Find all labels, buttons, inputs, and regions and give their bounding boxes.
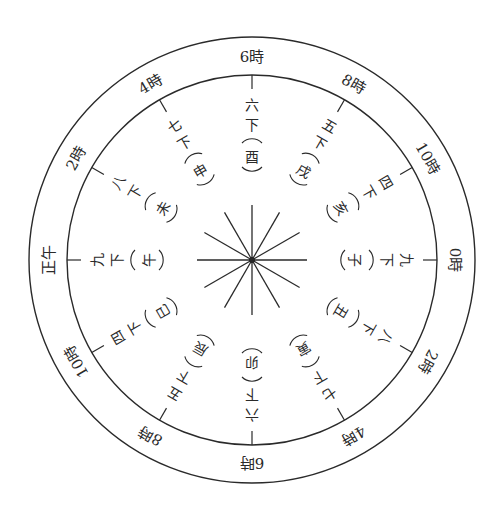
segment-branch: 未: [152, 198, 173, 218]
segment-count: 七: [164, 115, 184, 136]
segment-suffix: 下: [358, 317, 379, 337]
segment-count: 五: [319, 115, 339, 136]
spoke-line: [252, 260, 300, 288]
segment-count: 八: [376, 327, 397, 347]
segment-count: 五: [164, 384, 184, 405]
segment-branch: 子: [347, 253, 363, 267]
hour-label-10: 2時: [62, 143, 90, 173]
hour-label-2: 10時: [411, 139, 444, 178]
segment-suffix: 下: [309, 366, 329, 387]
segment-suffix: 下: [245, 387, 259, 403]
hour-label-text: 0時: [446, 248, 464, 273]
spoke-line: [252, 260, 280, 308]
hour-label-9: 正午: [40, 245, 58, 275]
ring-tick: [400, 168, 412, 175]
segment-branch: 辰: [190, 339, 210, 360]
segment-suffix: 下: [174, 366, 194, 387]
paren-open-icon: [242, 377, 262, 381]
ring-tick: [92, 168, 104, 175]
segment-branch: 丑: [331, 301, 352, 321]
dial-svg: 6時8時10時0時2時4時6時8時10時正午2時4時 六下酉五下戌四下亥九下子八…: [0, 0, 500, 509]
hour-label-text: 8時: [338, 70, 368, 98]
hour-label-text: 10時: [60, 342, 93, 381]
spoke-line: [225, 212, 253, 260]
hour-label-0: 6時: [240, 48, 265, 66]
segment-suffix: 下: [125, 317, 146, 337]
ring-tick: [338, 100, 345, 112]
segment-count: 四: [107, 327, 128, 347]
paren-close-icon: [159, 250, 163, 270]
segment-label-9: 九下午: [89, 250, 163, 270]
segment-label-8: 四下巳: [106, 296, 180, 350]
ring-tick: [160, 100, 167, 112]
segment-label-6: 六下卯: [242, 349, 262, 423]
hour-label-text: 6時: [240, 48, 265, 66]
paren-open-icon: [369, 250, 373, 270]
segment-suffix: 下: [109, 253, 125, 267]
segment-suffix: 下: [125, 182, 146, 202]
hour-label-11: 4時: [135, 70, 165, 98]
hour-label-text: 4時: [338, 422, 368, 450]
segment-branch: 午: [141, 253, 157, 267]
segment-branch: 申: [190, 160, 210, 181]
hour-label-text: 10時: [411, 139, 444, 178]
segment-suffix: 下: [358, 182, 379, 202]
segment-branch: 卯: [245, 355, 259, 371]
ring-tick: [338, 408, 345, 420]
spoke-line: [204, 260, 252, 288]
hour-label-8: 10時: [60, 342, 93, 381]
hour-label-3: 0時: [446, 248, 464, 273]
segment-branch: 巳: [152, 301, 173, 321]
segment-suffix: 下: [245, 117, 259, 133]
hour-label-text: 2時: [62, 143, 90, 173]
spoke-line: [252, 212, 280, 260]
segment-count: 六: [245, 97, 259, 113]
segment-suffix: 下: [379, 253, 395, 267]
segment-branch: 戌: [293, 160, 313, 181]
ring-tick: [160, 408, 167, 420]
segment-label-5: 七下寅: [288, 332, 342, 406]
segment-label-3: 九下子: [341, 250, 415, 270]
spoke-line: [204, 233, 252, 261]
segment-count: 九: [89, 253, 105, 267]
hour-label-1: 8時: [338, 70, 368, 98]
ring-tick: [400, 346, 412, 353]
paren-close-icon: [242, 349, 262, 353]
spoke-line: [252, 233, 300, 261]
hour-label-text: 8時: [135, 422, 165, 450]
hour-label-5: 4時: [338, 422, 368, 450]
hour-label-text: 6時: [240, 454, 265, 472]
segment-label-0: 六下酉: [242, 97, 262, 171]
hour-label-text: 2時: [414, 346, 442, 376]
segment-label-2: 四下亥: [324, 170, 398, 224]
hour-label-text: 正午: [40, 245, 58, 275]
segment-branch: 寅: [293, 339, 313, 360]
paren-close-icon: [242, 167, 262, 171]
spoke-line: [225, 260, 253, 308]
paren-open-icon: [242, 139, 262, 143]
dial-spokes: [197, 205, 307, 315]
segment-label-1: 五下戌: [288, 114, 342, 188]
segment-suffix: 下: [309, 133, 329, 154]
hour-label-6: 6時: [240, 454, 265, 472]
segment-label-7: 五下辰: [162, 332, 216, 406]
segment-branch: 亥: [331, 198, 352, 218]
segment-count: 六: [245, 407, 259, 423]
hour-label-4: 2時: [414, 346, 442, 376]
paren-close-icon: [341, 250, 345, 270]
hour-label-7: 8時: [135, 422, 165, 450]
segment-label-4: 八下丑: [324, 296, 398, 350]
segment-count: 九: [399, 253, 415, 267]
segment-suffix: 下: [174, 133, 194, 154]
hour-label-text: 4時: [135, 70, 165, 98]
segment-label-10: 八下未: [106, 170, 180, 224]
segment-count: 八: [107, 172, 128, 192]
ring-tick: [92, 346, 104, 353]
segment-count: 七: [319, 384, 339, 405]
segment-count: 四: [376, 172, 397, 192]
paren-open-icon: [131, 250, 135, 270]
segment-branch: 酉: [245, 149, 259, 165]
segment-label-11: 七下申: [162, 114, 216, 188]
time-dial-diagram: 6時8時10時0時2時4時6時8時10時正午2時4時 六下酉五下戌四下亥九下子八…: [0, 0, 500, 509]
